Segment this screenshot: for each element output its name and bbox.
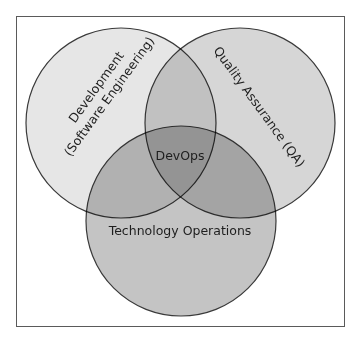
- devops-center-label: DevOps: [156, 148, 205, 163]
- devops-venn-diagram: Development (Software Engineering) Quali…: [0, 0, 362, 341]
- technology-operations-label: Technology Operations: [108, 223, 252, 238]
- venn-circles: [26, 28, 335, 316]
